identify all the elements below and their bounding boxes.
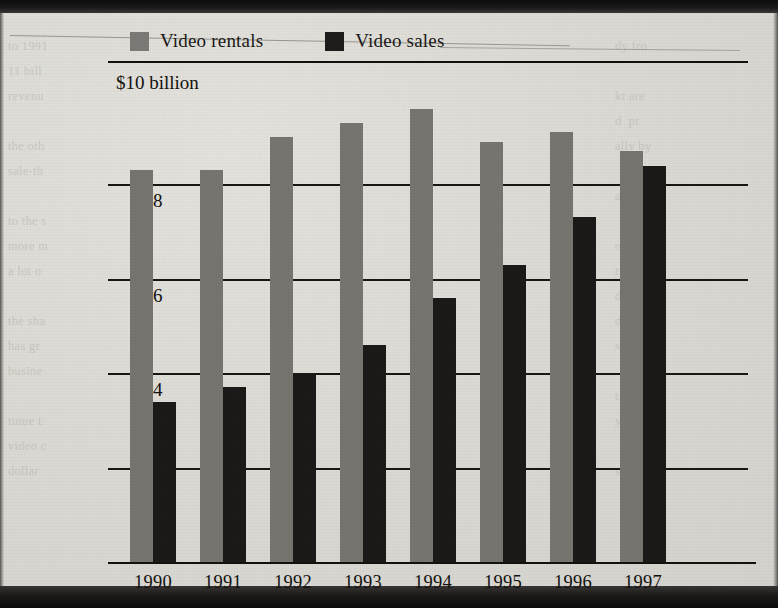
bar-1993-video-rentals [340, 123, 363, 562]
bar-1995-video-sales [503, 265, 526, 562]
bar-group-1995 [480, 90, 528, 562]
x-tick-label-1995: 1995 [479, 572, 527, 593]
x-tick-label-1992: 1992 [269, 572, 317, 593]
x-tick-label-1996: 1996 [549, 572, 597, 593]
chart-legend: Video rentals Video sales [130, 28, 506, 54]
scanned-page: to 1991 11 bill revenu the oth sale-th t… [0, 0, 778, 608]
chart-top-rule [108, 61, 748, 63]
bar-group-1994 [410, 90, 458, 562]
x-tick-label-1991: 1991 [199, 572, 247, 593]
x-tick-label-1993: 1993 [339, 572, 387, 593]
x-axis-baseline [108, 562, 756, 564]
bar-1996-video-rentals [550, 132, 573, 562]
bar-group-1996 [550, 90, 598, 562]
bar-1994-video-rentals [410, 109, 433, 562]
bar-1990-video-rentals [130, 170, 153, 562]
bar-1991-video-sales [223, 387, 246, 562]
legend-swatch-video-sales [325, 32, 344, 51]
bar-1992-video-rentals [270, 137, 293, 562]
bar-group-1993 [340, 90, 388, 562]
bar-series-container [108, 90, 748, 564]
x-tick-label-1990: 1990 [129, 572, 177, 593]
bar-group-1990 [130, 90, 178, 562]
bar-1997-video-rentals [620, 151, 643, 562]
legend-swatch-video-rentals [130, 32, 149, 51]
bar-1991-video-rentals [200, 170, 223, 562]
bar-1993-video-sales [363, 345, 386, 562]
bar-chart: Video rentals Video sales $10 billion 24… [0, 0, 778, 608]
bar-1990-video-sales [153, 402, 176, 562]
bar-1995-video-rentals [480, 142, 503, 562]
bar-group-1992 [270, 90, 318, 562]
plot-area: 2468 [108, 90, 748, 564]
x-axis-labels: 19901991199219931994199519961997 [108, 572, 748, 598]
bar-group-1991 [200, 90, 248, 562]
legend-label-video-rentals: Video rentals [160, 30, 263, 52]
bar-1997-video-sales [643, 166, 666, 562]
legend-label-video-sales: Video sales [355, 30, 444, 52]
legend-item-video-sales: Video sales [325, 30, 444, 52]
x-tick-label-1994: 1994 [409, 572, 457, 593]
x-tick-label-1997: 1997 [619, 572, 667, 593]
legend-item-video-rentals: Video rentals [130, 30, 263, 52]
bar-group-1997 [620, 90, 668, 562]
bar-1996-video-sales [573, 217, 596, 562]
bar-1992-video-sales [293, 373, 316, 562]
bar-1994-video-sales [433, 298, 456, 562]
